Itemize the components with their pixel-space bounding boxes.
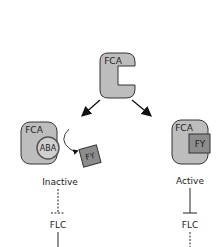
active-label: Active <box>176 176 204 186</box>
fca-aba-complex: FCA ABA FY <box>21 122 101 167</box>
arrow-to-active <box>132 100 150 115</box>
flc-label-left: FLC <box>50 220 66 230</box>
fy-label-right: FY <box>195 139 206 149</box>
fca-label-right: FCA <box>175 123 193 133</box>
release-arrow <box>64 129 77 151</box>
arrow-to-inactive <box>83 100 100 115</box>
fca-fy-complex: FCA FY <box>172 120 210 164</box>
aba-label: ABA <box>40 144 57 153</box>
fca-label-top: FCA <box>104 56 122 66</box>
fca-protein-top: FCA <box>100 53 135 98</box>
fca-label-left: FCA <box>25 125 43 135</box>
inactive-label: Inactive <box>42 177 78 187</box>
fy-protein-released: FY <box>79 145 101 167</box>
fca-aba-fy-diagram: FCA FCA ABA FY Inactive FLC FCA FY Activ… <box>0 0 223 247</box>
flc-label-right: FLC <box>182 220 198 230</box>
